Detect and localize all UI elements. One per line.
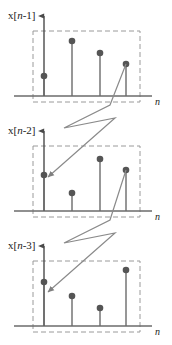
stem-dot bbox=[69, 293, 76, 300]
stem-dot bbox=[123, 267, 130, 274]
stem-dot bbox=[97, 305, 104, 312]
stem-dot bbox=[69, 190, 76, 197]
stem-dot bbox=[41, 279, 48, 286]
connector-2-3-zigzag-arrow bbox=[48, 170, 126, 292]
panel-1 bbox=[14, 16, 152, 102]
panel-3-stems bbox=[41, 267, 130, 326]
stem-dot bbox=[41, 73, 48, 80]
panel-2-y-label: x[n-2] bbox=[8, 124, 36, 136]
stem-dot bbox=[97, 50, 104, 57]
panel-3-y-label: x[n-3] bbox=[8, 239, 36, 251]
signal-delay-figure bbox=[0, 0, 172, 345]
panel-2-dashed-box bbox=[33, 146, 140, 217]
stem-dot bbox=[97, 156, 104, 163]
connector-1-2-zigzag-arrow bbox=[48, 64, 126, 177]
panel-1-y-label: x[n-1] bbox=[8, 9, 36, 21]
panel-1-stems bbox=[41, 38, 130, 96]
panel-1-x-label: n bbox=[155, 96, 160, 107]
stem-dot bbox=[41, 172, 48, 179]
panel-3-x-label: n bbox=[155, 326, 160, 337]
panel-2 bbox=[14, 131, 152, 217]
panel-3 bbox=[14, 246, 152, 332]
panel-2-x-label: n bbox=[155, 211, 160, 222]
stem-dot bbox=[69, 38, 76, 45]
